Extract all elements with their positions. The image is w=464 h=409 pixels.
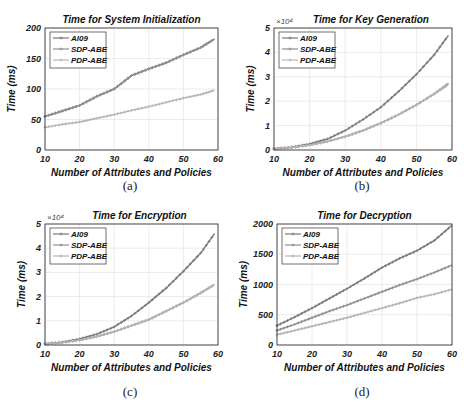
- x-tick-label: 40: [143, 349, 154, 359]
- x-tick-label: 40: [376, 349, 387, 359]
- legend-label: PDP-ABE: [71, 252, 108, 261]
- x-axis-label: Number of Attributes and Policies: [51, 362, 212, 373]
- y-axis-label: Time (ms): [238, 260, 249, 308]
- x-tick-label: 30: [109, 349, 119, 359]
- y-tick-label: 5: [265, 23, 271, 33]
- x-tick-label: 10: [272, 349, 282, 359]
- x-tick-label: 60: [213, 154, 223, 164]
- legend-label: PDP-ABE: [300, 56, 337, 65]
- x-tick-label: 50: [411, 154, 421, 164]
- x-tick-label: 30: [342, 349, 352, 359]
- y-tick-label: 1500: [253, 249, 273, 259]
- y-tick-label: 2000: [252, 219, 273, 229]
- y-tick-label: 2: [264, 96, 270, 106]
- x-tick-label: 40: [143, 154, 154, 164]
- y-exponent: ×10⁴: [47, 213, 65, 222]
- x-tick-label: 30: [109, 154, 119, 164]
- x-tick-label: 10: [40, 349, 50, 359]
- x-tick-label: 50: [412, 349, 422, 359]
- legend: AI09SDP-ABEPDP-ABE: [282, 228, 340, 264]
- y-tick-label: 0: [265, 145, 270, 155]
- y-tick-label: 0: [268, 340, 273, 350]
- x-axis-label: Number of Attributes and Policies: [284, 362, 445, 373]
- legend-label: SDP-ABE: [71, 241, 108, 250]
- x-tick-label: 20: [304, 154, 315, 164]
- y-tick-label: 0: [36, 340, 41, 350]
- x-axis-label: Number of Attributes and Policies: [283, 167, 444, 178]
- x-tick-label: 20: [74, 349, 85, 359]
- y-tick-label: 4: [264, 47, 270, 57]
- chart-panel-a: 102030405060050100150200Time for System …: [0, 0, 232, 200]
- x-tick-label: 60: [213, 349, 223, 359]
- y-tick-label: 500: [258, 310, 273, 320]
- y-tick-label: 5: [36, 219, 42, 229]
- chart-title: Time for Key Generation: [313, 14, 429, 25]
- chart-c: 102030405060012345×10⁴Time for Encryptio…: [0, 205, 232, 405]
- caption-a: (a): [110, 178, 150, 194]
- y-tick-label: 2: [35, 292, 41, 302]
- chart-panel-d: 1020304050600500100015002000Time for Dec…: [232, 205, 464, 405]
- x-tick-label: 20: [306, 349, 317, 359]
- y-tick-label: 200: [25, 23, 41, 33]
- chart-title: Time for System Initialization: [62, 14, 200, 25]
- legend-label: AI09: [70, 230, 88, 239]
- y-tick-label: 50: [31, 115, 41, 125]
- y-tick-label: 3: [36, 267, 41, 277]
- y-tick-label: 1: [36, 316, 41, 326]
- legend-label: AI09: [70, 34, 88, 43]
- x-axis-label: Number of Attributes and Policies: [51, 167, 212, 178]
- x-tick-label: 40: [375, 154, 386, 164]
- chart-d: 1020304050600500100015002000Time for Dec…: [232, 205, 464, 405]
- y-axis-label: Time (ms): [16, 260, 27, 308]
- caption-c: (c): [110, 384, 150, 400]
- caption-d: (d): [342, 384, 382, 400]
- y-exponent: ×10⁴: [276, 17, 294, 26]
- x-tick-label: 30: [340, 154, 350, 164]
- chart-b: 102030405060012345×10⁴Time for Key Gener…: [232, 0, 464, 200]
- x-tick-label: 50: [178, 154, 188, 164]
- legend-label: AI09: [302, 230, 320, 239]
- chart-panel-b: 102030405060012345×10⁴Time for Key Gener…: [232, 0, 464, 200]
- legend-label: SDP-ABE: [303, 241, 340, 250]
- legend-label: SDP-ABE: [300, 45, 337, 54]
- chart-title: Time for Encryption: [92, 210, 186, 221]
- legend-label: AI09: [299, 34, 317, 43]
- y-tick-label: 100: [26, 84, 41, 94]
- chart-a: 102030405060050100150200Time for System …: [0, 0, 232, 200]
- y-tick-label: 1000: [253, 280, 273, 290]
- y-tick-label: 1: [265, 121, 270, 131]
- x-tick-label: 10: [40, 154, 50, 164]
- legend-label: SDP-ABE: [71, 45, 108, 54]
- y-tick-label: 150: [26, 54, 41, 64]
- x-tick-label: 60: [447, 349, 457, 359]
- legend: AI09SDP-ABEPDP-ABE: [50, 32, 108, 68]
- y-axis-label: Time (ms): [245, 65, 256, 113]
- chart-title: Time for Decryption: [317, 210, 411, 221]
- legend: AI09SDP-ABEPDP-ABE: [50, 228, 108, 264]
- x-tick-label: 60: [447, 154, 457, 164]
- x-tick-label: 20: [74, 154, 85, 164]
- y-tick-label: 4: [35, 243, 41, 253]
- x-tick-label: 50: [178, 349, 188, 359]
- y-tick-label: 3: [265, 72, 270, 82]
- y-tick-label: 0: [36, 145, 41, 155]
- chart-panel-c: 102030405060012345×10⁴Time for Encryptio…: [0, 205, 232, 405]
- legend-label: PDP-ABE: [303, 252, 340, 261]
- legend-label: PDP-ABE: [71, 56, 108, 65]
- legend: AI09SDP-ABEPDP-ABE: [279, 32, 337, 68]
- y-axis-label: Time (ms): [6, 65, 17, 113]
- caption-b: (b): [342, 178, 382, 194]
- x-tick-label: 10: [269, 154, 279, 164]
